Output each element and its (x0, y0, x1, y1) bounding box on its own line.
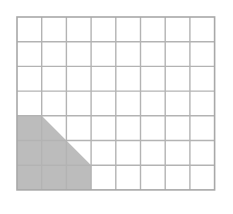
figure-canvas (0, 0, 233, 214)
grid-figure (0, 0, 233, 214)
